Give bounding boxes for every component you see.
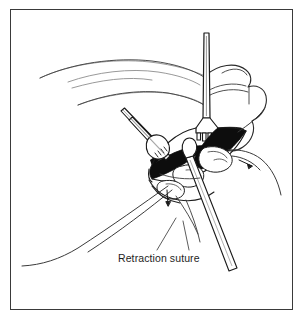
skin-contour-lines <box>40 61 205 105</box>
surgical-illustration-drawing <box>0 0 305 325</box>
skin-contour-lines-dark <box>40 60 204 105</box>
caption-leader-lines <box>157 218 189 250</box>
surgical-figure: Retraction suture <box>0 0 305 325</box>
caption-retraction-suture: Retraction suture <box>118 252 200 264</box>
forceps-instrument <box>121 108 170 160</box>
